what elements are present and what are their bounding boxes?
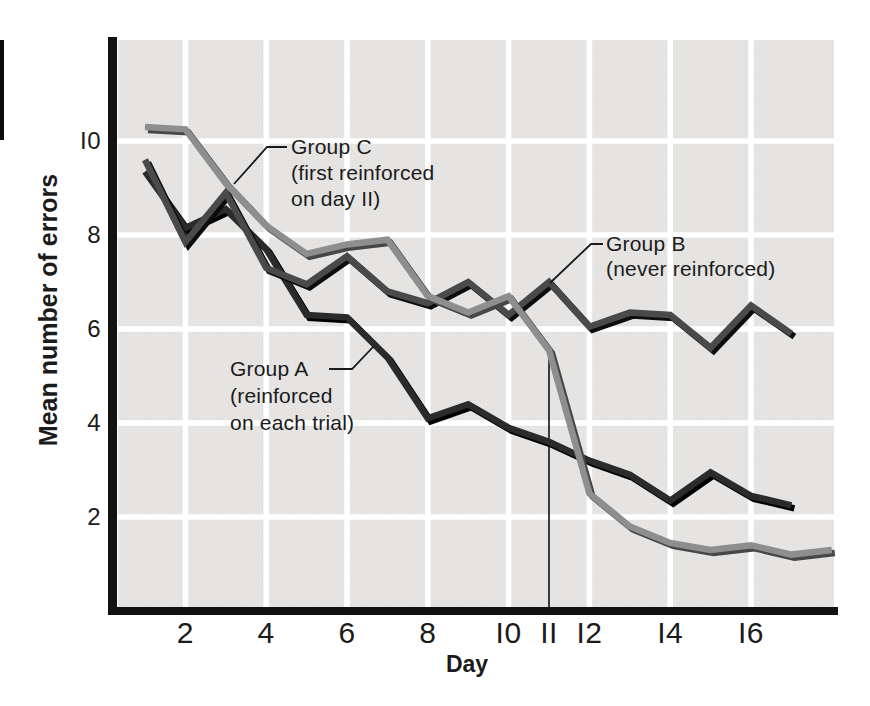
latent-learning-line-chart: 2468I0III2I4I62468I0DayMean number of er… [0, 0, 870, 706]
y-tick-label-4: 4 [87, 409, 101, 436]
x-tick-label-12: I2 [576, 616, 602, 649]
gridline-x-16 [748, 40, 754, 607]
annotation-group-c-text-line-3: on day II) [291, 187, 381, 210]
annotation-group-b-text-line-1: Group B [606, 232, 686, 255]
x-tick-label-4: 4 [258, 616, 275, 649]
gridline-x-10 [506, 40, 512, 607]
x-tick-label-8: 8 [419, 616, 436, 649]
tolman-latent-learning-figure: 2468I0III2I4I62468I0DayMean number of er… [0, 0, 870, 706]
annotation-group-c-text-line-2: (first reinforced [291, 161, 434, 184]
gridline-y-8 [118, 232, 834, 238]
annotation-group-c-text-line-1: Group C [291, 135, 372, 158]
y-tick-label-10: I0 [80, 127, 101, 154]
x-tick-label-16: I6 [738, 616, 764, 649]
gridline-x-8 [425, 40, 431, 607]
x-tick-label-6: 6 [338, 616, 355, 649]
gridline-x-2 [183, 40, 189, 607]
y-tick-label-2: 2 [87, 503, 101, 530]
x-axis-title: Day [446, 651, 488, 677]
x-tick-label-14: I4 [657, 616, 683, 649]
page-edge-scan-artifact [0, 40, 4, 140]
x-tick-label-2: 2 [177, 616, 194, 649]
chart-container: 2468I0III2I4I62468I0DayMean number of er… [0, 0, 870, 706]
annotation-group-b-text-line-2: (never reinforced) [606, 257, 775, 280]
x-tick-label-11: II [540, 616, 558, 649]
gridline-x-14 [667, 40, 673, 607]
y-tick-label-8: 8 [87, 221, 101, 248]
gridline-y-2 [118, 514, 834, 520]
plot-area [118, 40, 834, 607]
x-axis-line [108, 607, 838, 615]
annotation-group-a-text-line-2: (reinforced [230, 384, 333, 407]
y-tick-label-6: 6 [87, 315, 101, 342]
annotation-group-a-text-line-1: Group A [230, 357, 308, 380]
gridline-y-10 [118, 138, 834, 144]
gridline-x-4 [263, 40, 269, 607]
x-tick-label-10: I0 [496, 616, 522, 649]
y-axis-line [108, 37, 117, 614]
y-axis-title: Mean number of errors [34, 174, 62, 446]
gridline-y-4 [118, 420, 834, 426]
annotation-group-a-text-line-3: on each trial) [230, 411, 354, 434]
